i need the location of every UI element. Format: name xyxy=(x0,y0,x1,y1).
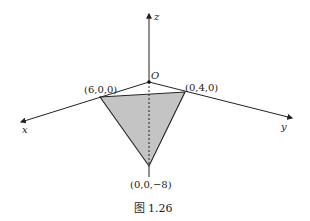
figure-caption: 图 1.26 xyxy=(134,202,173,215)
shaded-triangle xyxy=(100,92,185,166)
z-intercept-label: (0,0,−8) xyxy=(130,179,172,190)
origin-label: O xyxy=(151,70,159,81)
diagram-canvas: z x y O (6,0,0) (0,4,0) (0,0,−8) 图 1.26 xyxy=(0,0,310,221)
y-intercept-label: (0,4,0) xyxy=(185,82,218,93)
x-axis-label: x xyxy=(22,124,28,135)
y-axis-label: y xyxy=(280,121,287,132)
x-intercept-label: (6,0,0) xyxy=(84,84,117,95)
z-axis-label: z xyxy=(153,11,160,22)
